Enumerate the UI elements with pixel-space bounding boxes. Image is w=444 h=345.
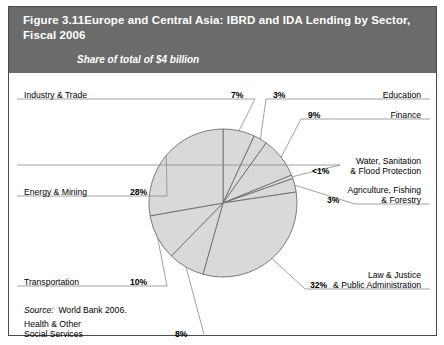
label-agriculture-1: Agriculture, Fishing <box>347 185 421 195</box>
label-health-social-2: Social Services <box>24 329 83 339</box>
value-agriculture: 3% <box>327 195 339 205</box>
figure-container: Figure 3.11Europe and Central Asia: IBRD… <box>8 6 437 336</box>
source-text: World Bank 2006. <box>58 305 126 315</box>
label-health-social-1: Health & Other <box>24 319 81 329</box>
chart-plot-area: Industry & Trade 7% Energy & Mining 28% … <box>9 73 436 336</box>
label-energy-mining: Energy & Mining <box>24 187 87 197</box>
label-water-sanitation-2: & Flood Protection <box>350 166 421 176</box>
label-agriculture-2: & Forestry <box>381 195 421 205</box>
pie-slice-energy-mining[interactable] <box>149 129 223 216</box>
value-industry-trade: 7% <box>231 90 243 100</box>
figure-number: Figure 3.11 <box>23 13 84 28</box>
value-finance: 9% <box>308 110 320 120</box>
value-water-sanitation: <1% <box>312 166 329 176</box>
pie-chart-svg <box>9 73 438 336</box>
leader-line-finance <box>281 119 430 157</box>
leader-line-industry-trade <box>17 99 255 131</box>
pie-slices <box>149 129 297 277</box>
value-transportation: 10% <box>130 277 147 287</box>
label-water-sanitation-1: Water, Sanitation <box>356 156 421 166</box>
value-health-social: 8% <box>175 329 187 339</box>
label-education: Education <box>383 90 421 100</box>
value-law-justice: 32% <box>310 280 327 290</box>
figure-header: Figure 3.11Europe and Central Asia: IBRD… <box>9 7 436 73</box>
figure-subtitle: Share of total of $4 billion <box>77 54 199 65</box>
label-law-justice-2: & Public Administration <box>333 280 421 290</box>
value-energy-mining: 28% <box>130 187 147 197</box>
source-note: Source: World Bank 2006. <box>24 305 127 315</box>
label-finance: Finance <box>390 110 421 120</box>
figure-title: Figure 3.11Europe and Central Asia: IBRD… <box>23 13 428 42</box>
source-prefix: Source: <box>24 305 54 315</box>
value-education: 3% <box>273 90 285 100</box>
label-transportation: Transportation <box>24 277 79 287</box>
label-industry-trade: Industry & Trade <box>24 90 87 100</box>
label-law-justice-1: Law & Justice <box>368 270 421 280</box>
